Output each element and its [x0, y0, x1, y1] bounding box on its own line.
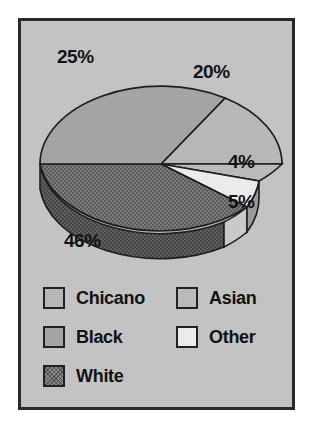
legend-swatch-asian [176, 287, 198, 309]
legend-swatch-chicano [43, 287, 65, 309]
legend-item-white: White [43, 361, 145, 390]
legend-label-chicano: Chicano [76, 289, 145, 307]
pie-label-25-percent: 25% [57, 46, 94, 68]
legend-label-black: Black [76, 328, 123, 346]
legend-swatch-black [43, 326, 65, 348]
legend-item-black: Black [43, 322, 145, 351]
pie-label-5-percent: 5% [228, 191, 254, 213]
pie-chart: 25% 20% 4% 5% 46% [21, 21, 292, 271]
legend-item-other: Other [176, 322, 257, 351]
legend-label-asian: Asian [209, 289, 257, 307]
legend-swatch-other [176, 326, 198, 348]
legend-item-chicano: Chicano [43, 283, 145, 312]
legend-swatch-white [43, 365, 65, 387]
legend-column-left: Chicano Black White [43, 283, 145, 400]
figure-frame: 25% 20% 4% 5% 46% Chicano Black White [18, 18, 295, 410]
pie-label-4-percent: 4% [228, 151, 254, 173]
legend-item-asian: Asian [176, 283, 257, 312]
legend-label-white: White [76, 367, 124, 385]
legend-column-right: Asian Other [176, 283, 257, 361]
legend-label-other: Other [209, 328, 256, 346]
pie-label-20-percent: 20% [193, 61, 230, 83]
pie-label-46-percent: 46% [64, 230, 101, 252]
